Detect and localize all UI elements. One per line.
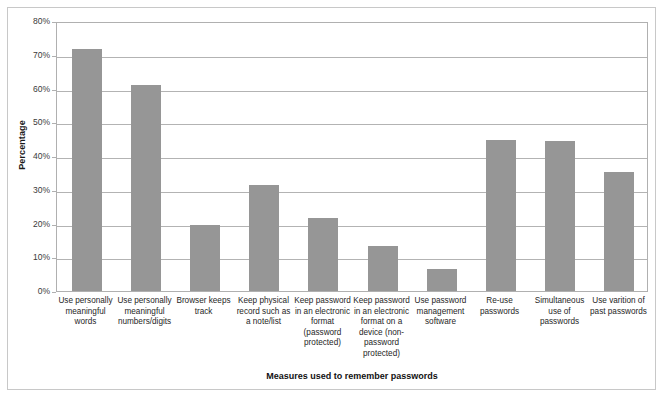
- bar: [308, 218, 338, 291]
- bars-group: [57, 23, 647, 291]
- bar: [604, 172, 634, 291]
- y-tick-mark: [52, 22, 56, 23]
- y-tick-mark: [52, 90, 56, 91]
- y-tick-label: 30%: [8, 186, 50, 195]
- x-tick-label: Use varition of past passwords: [590, 296, 647, 317]
- x-tick-label: Browser keeps track: [175, 296, 232, 317]
- y-tick-label: 80%: [8, 17, 50, 26]
- x-axis-title: Measures used to remember passwords: [56, 371, 648, 381]
- y-axis-title: Percentage: [17, 90, 27, 200]
- y-tick-label: 40%: [8, 152, 50, 161]
- bar: [368, 246, 398, 291]
- y-tick-mark: [52, 157, 56, 158]
- x-axis-tick-labels: Use personally meaningful wordsUse perso…: [56, 296, 648, 368]
- x-tick-label: Keep password in an electronic format (p…: [294, 296, 351, 349]
- y-tick-mark: [52, 56, 56, 57]
- y-tick-label: 10%: [8, 253, 50, 262]
- bar-chart-figure: Percentage 0%10%20%30%40%50%60%70%80% Us…: [0, 0, 664, 398]
- y-tick-label: 60%: [8, 85, 50, 94]
- y-tick-label: 70%: [8, 51, 50, 60]
- y-tick-mark: [52, 123, 56, 124]
- bar: [190, 225, 220, 291]
- y-tick-mark: [52, 258, 56, 259]
- y-tick-mark: [52, 225, 56, 226]
- x-tick-label: Keep password in an electronic format on…: [353, 296, 410, 360]
- x-tick-label: Use personally meaningful words: [57, 296, 114, 328]
- bar: [249, 185, 279, 291]
- bar: [72, 49, 102, 291]
- y-tick-label: 20%: [8, 220, 50, 229]
- x-tick-label: Simultaneous use of passwords: [531, 296, 588, 328]
- y-tick-mark: [52, 191, 56, 192]
- x-tick-label: Use password management software: [412, 296, 469, 328]
- bar: [486, 140, 516, 291]
- y-tick-label: 0%: [8, 287, 50, 296]
- bar: [427, 269, 457, 291]
- y-tick-mark: [52, 292, 56, 293]
- bar: [545, 141, 575, 291]
- x-tick-label: Keep physical record such as a note/list: [235, 296, 292, 328]
- bar: [131, 85, 161, 291]
- x-tick-label: Use personally meaningful numbers/digits: [116, 296, 173, 328]
- x-tick-label: Re-use passwords: [471, 296, 528, 317]
- plot-area: [56, 22, 648, 292]
- y-tick-label: 50%: [8, 118, 50, 127]
